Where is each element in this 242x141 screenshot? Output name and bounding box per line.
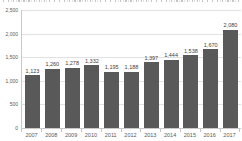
y-tick-label: 2,000 [5, 31, 18, 37]
plot-area: 1,1231,2601,2781,3321,1951,1881,3971,444… [21, 10, 241, 129]
bar-2007 [25, 75, 40, 128]
bar-2014 [164, 60, 179, 128]
y-tick-label: 500 [10, 101, 18, 107]
x-tick-label-2007: 2007 [24, 132, 39, 140]
bar-column-2015: 1,538 [183, 55, 198, 128]
bar-2008 [45, 69, 60, 128]
bar-2017 [223, 30, 238, 128]
bar-2015 [183, 55, 198, 128]
bar-column-2011: 1,195 [104, 72, 119, 128]
bar-value-label: 1,278 [65, 60, 79, 66]
bar-column-2016: 1,670 [203, 49, 218, 128]
bar-value-label: 1,444 [164, 52, 178, 58]
bar-value-label: 1,123 [26, 68, 40, 74]
x-tick-label-2009: 2009 [64, 132, 79, 140]
bar-2012 [124, 72, 139, 128]
bar-value-label: 1,195 [105, 64, 119, 70]
y-tick-label: 0 [15, 125, 18, 131]
y-tick-label: 1,000 [5, 78, 18, 84]
x-tick-label-2013: 2013 [143, 132, 158, 140]
bar-2009 [65, 68, 80, 128]
x-tick-label-2015: 2015 [182, 132, 197, 140]
x-tick-label-2014: 2014 [163, 132, 178, 140]
bar-2016 [203, 49, 218, 128]
bar-column-2007: 1,123 [25, 75, 40, 128]
bar-column-2012: 1,188 [124, 72, 139, 128]
bar-column-2013: 1,397 [144, 62, 159, 128]
bar-column-2014: 1,444 [164, 60, 179, 128]
y-tick-label: 2,500 [5, 7, 18, 13]
cropped-title-strip [3, 0, 239, 2]
y-axis: 05001,0001,5002,0002,500 [0, 10, 18, 128]
bar-column-2009: 1,278 [65, 68, 80, 128]
x-tick-label-2017: 2017 [222, 132, 237, 140]
x-tick-label-2012: 2012 [123, 132, 138, 140]
x-tick-label-2016: 2016 [202, 132, 217, 140]
x-tick-label-2008: 2008 [44, 132, 59, 140]
bar-2011 [104, 72, 119, 128]
bar-value-label: 1,397 [144, 55, 158, 61]
bar-value-label: 1,538 [184, 48, 198, 54]
bar-chart: 05001,0001,5002,0002,500 1,1231,2601,278… [0, 0, 242, 141]
bar-value-label: 1,188 [125, 64, 139, 70]
bar-value-label: 1,332 [85, 58, 99, 64]
bar-value-label: 1,260 [45, 61, 59, 67]
x-tick-label-2010: 2010 [83, 132, 98, 140]
bar-column-2010: 1,332 [84, 65, 99, 128]
bar-value-label: 1,670 [204, 42, 218, 48]
bar-column-2008: 1,260 [45, 69, 60, 128]
x-axis: 2007200820092010201120122013201420152016… [21, 132, 240, 140]
bars-container: 1,1231,2601,2781,3321,1951,1881,3971,444… [22, 10, 241, 128]
bar-2013 [144, 62, 159, 128]
bar-value-label: 2,080 [224, 22, 238, 28]
bar-2010 [84, 65, 99, 128]
y-tick-label: 1,500 [5, 54, 18, 60]
x-tick-label-2011: 2011 [103, 132, 118, 140]
bar-column-2017: 2,080 [223, 30, 238, 128]
